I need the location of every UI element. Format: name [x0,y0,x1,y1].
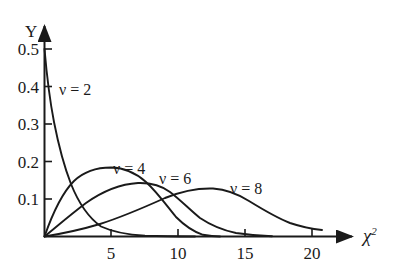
chart-plot-area [0,0,401,270]
y-axis-ticks [45,49,53,199]
y-tick-label-4: 0.1 [0,191,39,208]
x-tick-label-1: 10 [161,245,195,262]
y-tick-label-1: 0.4 [0,79,39,96]
x-axis-title-exponent: 2 [371,225,377,237]
y-axis-title: Y [25,23,37,40]
series-label-nu-6: ν = 6 [159,171,191,187]
series-label-nu-8: ν = 8 [230,181,262,197]
curve-nu-2 [45,49,196,237]
series-label-nu-4: ν = 4 [113,161,145,177]
series-label-nu-2: ν = 2 [59,82,91,98]
y-tick-label-3: 0.2 [0,154,39,171]
chi-square-distribution-chart: Y χ2 0.5 0.4 0.3 0.2 0.1 5 10 15 20 ν = … [0,0,401,270]
y-tick-label-0: 0.5 [0,41,39,58]
y-tick-label-2: 0.3 [0,116,39,133]
x-tick-label-3: 20 [295,245,329,262]
x-axis-title: χ2 [363,226,377,245]
x-tick-label-2: 15 [228,245,262,262]
curve-nu-4 [45,168,221,237]
x-tick-label-0: 5 [94,245,128,262]
